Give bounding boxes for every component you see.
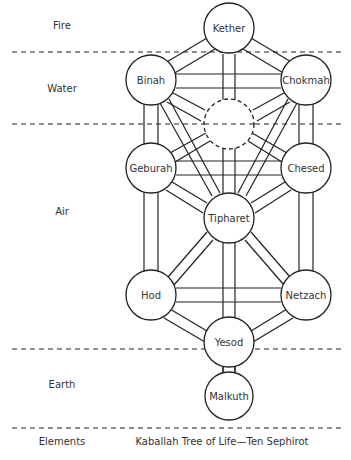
label-malkuth: Malkuth: [209, 391, 249, 402]
label-yesod: Yesod: [214, 337, 244, 348]
element-fire: Fire: [53, 20, 71, 31]
diagram-caption: Kaballah Tree of Life—Ten Sephirot: [135, 436, 308, 447]
label-netzach: Netzach: [286, 290, 327, 301]
node-daath-hidden: [204, 99, 254, 149]
label-hod: Hod: [141, 290, 161, 301]
tree-of-life-diagram: Kether Binah Chokmah Geburah Chesed Tiph…: [0, 0, 351, 460]
element-water: Water: [47, 83, 77, 94]
elements-heading: Elements: [39, 436, 86, 447]
label-chesed: Chesed: [287, 163, 324, 174]
element-air: Air: [55, 206, 70, 217]
sephirot-circles: [126, 3, 331, 420]
label-tipharet: Tipharet: [207, 213, 249, 224]
label-geburah: Geburah: [129, 163, 172, 174]
element-earth: Earth: [49, 379, 76, 390]
label-kether: Kether: [213, 23, 247, 34]
label-binah: Binah: [137, 75, 165, 86]
label-chokmah: Chokmah: [282, 75, 329, 86]
